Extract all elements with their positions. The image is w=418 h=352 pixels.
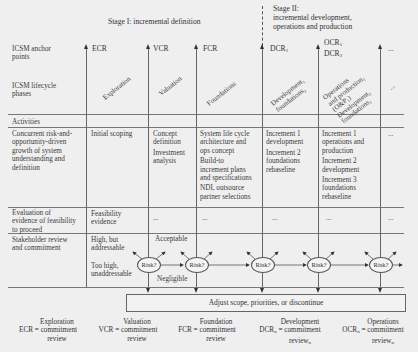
risk-node-vcr: Risk? bbox=[137, 257, 161, 273]
risk-node-fcr: Risk? bbox=[185, 257, 209, 273]
legend-ecr: Exploration ECR = commitment review bbox=[12, 318, 84, 343]
risk-node-ocr1: Risk? bbox=[307, 257, 331, 273]
legend-dcr: Development DCRn = commitment reviewn bbox=[252, 318, 328, 347]
risk-node-dcr1: Risk? bbox=[251, 257, 275, 273]
legend-fcr: Foundation FCR = commitment review bbox=[170, 318, 244, 343]
adjust-scope-box: Adjust scope, priorities, or discontinue bbox=[126, 294, 406, 312]
legend-vcr: Valuation VCR = commitment review bbox=[92, 318, 164, 343]
arrow-down-icon bbox=[194, 288, 198, 293]
arrow-down-icon bbox=[378, 288, 382, 293]
arrow-down-icon bbox=[316, 288, 320, 293]
arrow-down-icon bbox=[260, 288, 264, 293]
arrow-down-icon bbox=[146, 288, 150, 293]
risk-node-more: Risk? bbox=[369, 257, 393, 273]
legend-ocr: Operations OCRn = commitment reviewn bbox=[334, 318, 412, 347]
